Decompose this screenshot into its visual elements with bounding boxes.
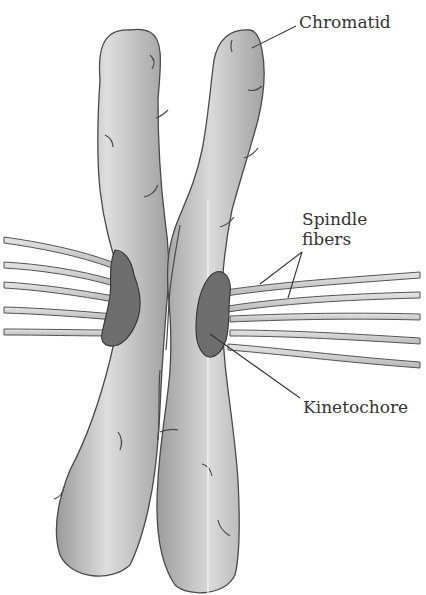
spindle-fibers-leader-line-a: [260, 252, 302, 284]
spindle-fibers-label-line1: Spindle: [302, 210, 367, 229]
spindle-fibers-leader-line-b: [288, 252, 302, 298]
chromatid-label: Chromatid: [299, 13, 391, 32]
spindle-fibers-label-line2: fibers: [302, 230, 351, 249]
kinetochore-label: Kinetochore: [303, 398, 408, 417]
spindle-fibers-right: [226, 272, 420, 368]
chromosome-illustration: [0, 0, 426, 595]
chromosome-diagram: Chromatid Spindle fibers Kinetochore: [0, 0, 426, 595]
spindle-fibers-left: [4, 237, 114, 336]
